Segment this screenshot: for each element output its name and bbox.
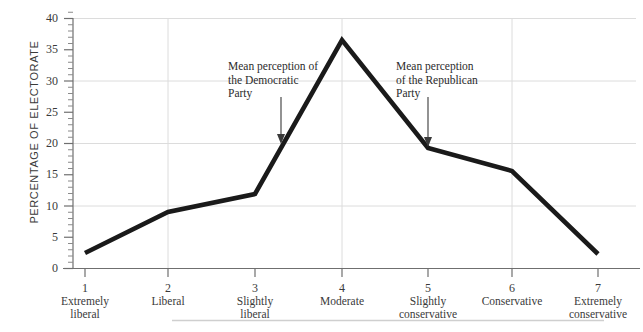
x-category-label-extremely-conservative: Extremely conservative [548,295,643,321]
x-axis-ticks [85,269,598,278]
x-category-line-1: Slightly [205,295,305,308]
x-category-line-2: conservative [378,308,478,321]
republican-annotation-text: Mean perception of the Republican Party [396,60,496,101]
y-tick-label-20: 20 [24,136,58,151]
democratic-annotation-text: Mean perception of the Democratic Party [228,60,336,101]
x-category-line-2: liberal [35,308,135,321]
y-tick-label-5: 5 [24,230,58,245]
republican-annotation-line-3: Party [396,87,496,101]
x-category-line-1: Liberal [118,295,218,308]
x-category-line-1: Conservative [462,295,562,308]
x-tick-number-6: 6 [467,281,557,296]
y-tick-label-30: 30 [24,74,58,89]
democratic-annotation-arrow [277,97,285,144]
x-category-line-2: liberal [205,308,305,321]
democratic-annotation-line-1: Mean perception of [228,60,336,74]
x-category-line-2: conservative [548,308,643,321]
x-tick-number-2: 2 [123,281,213,296]
x-tick-number-1: 1 [40,281,130,296]
chart-figure: PERCENTAGE OF ELECTORATE 40 35 30 25 20 … [0,0,643,332]
y-tick-label-10: 10 [24,199,58,214]
x-category-label-liberal: Liberal [118,295,218,308]
x-tick-number-4: 4 [297,281,387,296]
democratic-annotation-line-2: the Democratic [228,74,336,88]
x-category-line-1: Moderate [292,295,392,308]
x-tick-number-5: 5 [383,281,473,296]
republican-annotation-line-2: of the Republican [396,74,496,88]
republican-annotation-line-1: Mean perception [396,60,496,74]
y-tick-label-40: 40 [24,11,58,26]
y-tick-label-35: 35 [24,42,58,57]
x-category-label-conservative: Conservative [462,295,562,308]
horizontal-gridlines [73,19,636,207]
x-tick-number-7: 7 [553,281,643,296]
y-tick-label-15: 15 [24,167,58,182]
x-category-line-1: Extremely [548,295,643,308]
x-category-label-moderate: Moderate [292,295,392,308]
democratic-annotation-line-3: Party [228,87,336,101]
x-category-label-slightly-liberal: Slightly liberal [205,295,305,321]
y-tick-label-0: 0 [24,261,58,276]
y-tick-label-25: 25 [24,105,58,120]
x-tick-number-3: 3 [210,281,300,296]
republican-annotation-arrow [424,97,432,147]
